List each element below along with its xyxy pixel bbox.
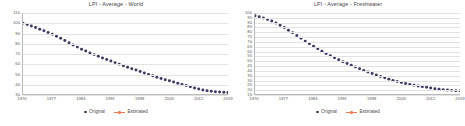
gridline (255, 13, 460, 14)
data-point (358, 67, 361, 70)
y-tick-label: 90 (15, 31, 20, 35)
legend-original-dot-icon (84, 111, 86, 113)
y-tick-label: 60 (247, 49, 252, 53)
y-tick-label: 80 (247, 30, 252, 34)
gridline (255, 90, 460, 91)
x-axis-freshwater: 19701977198419911998200520122019 (254, 96, 460, 108)
y-axis-freshwater: 1520253035404550556065707580859095100 (232, 13, 254, 95)
legend-original-dot-icon (316, 111, 318, 113)
x-tick-label: 1984 (308, 97, 317, 101)
data-point (210, 90, 213, 93)
y-tick-label: 20 (247, 88, 252, 92)
x-tick-label: 2005 (164, 97, 173, 101)
data-point (206, 89, 209, 92)
y-tick-label: 85 (247, 25, 252, 29)
legend-item-original[interactable]: Original (316, 110, 337, 115)
data-point (134, 69, 137, 72)
legend-estimated-line-icon (346, 111, 357, 114)
data-point (101, 56, 104, 59)
y-axis-world: 30405060708090100110 (0, 13, 22, 95)
data-point (97, 55, 100, 58)
x-tick-label: 1991 (338, 97, 347, 101)
data-point (316, 47, 319, 50)
y-tick-label: 50 (15, 72, 20, 76)
legend-estimated-label: Estimated (127, 110, 147, 115)
data-point (168, 79, 171, 82)
data-point (55, 35, 58, 38)
y-tick-label: 45 (247, 64, 252, 68)
gridline (255, 66, 460, 67)
y-tick-label: 55 (247, 54, 252, 58)
gridline (255, 27, 460, 28)
data-point (84, 50, 87, 53)
y-tick-label: 70 (247, 40, 252, 44)
data-point (400, 81, 403, 84)
y-tick-label: 80 (15, 42, 20, 46)
gridline (23, 75, 228, 76)
data-point (160, 77, 163, 80)
x-tick-label: 1977 (47, 97, 56, 101)
data-point (109, 60, 112, 63)
x-tick-label: 1977 (279, 97, 288, 101)
y-tick-label: 110 (13, 11, 20, 15)
x-tick-label: 1998 (135, 97, 144, 101)
series-layer-freshwater (255, 13, 460, 94)
gridline (23, 85, 228, 86)
y-tick-label: 40 (15, 83, 20, 87)
legend-item-original[interactable]: Original (84, 110, 105, 115)
data-point (287, 29, 290, 32)
legend-original-label: Original (89, 110, 105, 115)
x-tick-label: 1970 (249, 97, 258, 101)
legend-item-estimated[interactable]: Estimated (114, 110, 148, 115)
gridline (255, 56, 460, 57)
gridline (255, 81, 460, 82)
data-point (63, 39, 66, 42)
legend-freshwater: Original Estimated (232, 110, 464, 115)
plot-canvas-world (22, 13, 228, 95)
data-point (371, 72, 374, 75)
data-point (42, 29, 45, 32)
y-tick-label: 95 (247, 16, 252, 20)
gridline (23, 23, 228, 24)
gridline (255, 52, 460, 53)
y-tick-label: 100 (245, 11, 252, 15)
gridline (23, 44, 228, 45)
data-point (38, 28, 41, 31)
x-tick-label: 1998 (367, 97, 376, 101)
legend-original-label: Original (321, 110, 337, 115)
gridline (255, 71, 460, 72)
data-point (164, 78, 167, 81)
data-point (429, 87, 432, 90)
data-point (201, 88, 204, 91)
gridline (255, 76, 460, 77)
y-tick-label: 60 (15, 62, 20, 66)
data-point (130, 67, 133, 70)
gridline (255, 18, 460, 19)
data-point (105, 58, 108, 61)
legend-item-estimated[interactable]: Estimated (346, 110, 380, 115)
x-tick-label: 2012 (426, 97, 435, 101)
data-point (155, 76, 158, 79)
data-point (197, 88, 200, 91)
data-point (172, 80, 175, 83)
chart-panel-freshwater: LPI - Average - Freshwater 1520253035404… (232, 0, 464, 126)
data-point (222, 91, 225, 94)
gridline (255, 85, 460, 86)
data-point (227, 91, 228, 94)
gridline (255, 32, 460, 33)
data-point (279, 24, 282, 27)
gridline (255, 37, 460, 38)
data-point (218, 90, 221, 93)
plot-area-world: 30405060708090100110 1970197719841991199… (0, 13, 232, 99)
x-tick-label: 1991 (106, 97, 115, 101)
legend-estimated-line-icon (114, 111, 125, 114)
y-tick-label: 30 (247, 78, 252, 82)
data-point (34, 26, 37, 29)
legend-world: Original Estimated (0, 110, 232, 115)
y-tick-label: 50 (247, 59, 252, 63)
plot-canvas-freshwater (254, 13, 460, 95)
data-point (189, 85, 192, 88)
data-point (193, 86, 196, 89)
gridline (255, 47, 460, 48)
data-point (59, 37, 62, 40)
